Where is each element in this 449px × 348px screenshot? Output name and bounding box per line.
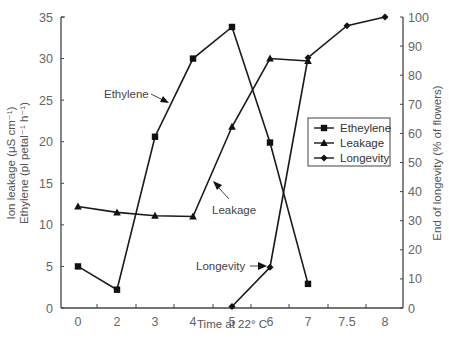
x-tick-label: 7.5 [338, 315, 355, 329]
y-right-tick-label: 80 [408, 69, 422, 83]
y-right-tick-label: 0 [408, 302, 415, 316]
y-left-tick-label: 35 [39, 11, 53, 25]
square-marker-icon [114, 287, 120, 293]
y-right-tick-label: 100 [408, 11, 429, 25]
annotation-longevity: Longevity [196, 260, 245, 272]
arrow-head-icon [258, 262, 267, 270]
x-tick-label: 2 [114, 315, 121, 329]
square-marker-icon [267, 139, 273, 145]
series-line [78, 59, 308, 217]
x-tick-label: 7 [305, 315, 312, 329]
annotation-ethylene: Ethylene [104, 88, 149, 100]
axes: 0510152025303501020304050607080901000234… [39, 11, 429, 330]
y-left-tick-label: 20 [39, 135, 53, 149]
x-tick-label: 3 [152, 315, 159, 329]
square-marker-icon [152, 134, 158, 140]
chart: 0510152025303501020304050607080901000234… [0, 0, 449, 348]
diamond-marker-icon [382, 14, 389, 21]
arrow-head-icon [213, 181, 222, 190]
square-marker-icon [190, 55, 196, 61]
y-axis-left-title-line2: Ethylene (pl petal⁻¹ h⁻¹) [18, 102, 30, 224]
legend-label: Longevity [340, 152, 389, 164]
y-right-tick-label: 90 [408, 40, 422, 54]
y-right-tick-label: 40 [408, 185, 422, 199]
square-marker-icon [75, 263, 81, 269]
y-left-tick-label: 30 [39, 52, 53, 66]
x-tick-label: 0 [75, 315, 82, 329]
y-left-tick-label: 10 [39, 218, 53, 232]
triangle-marker-icon [228, 123, 236, 130]
square-marker-icon [229, 24, 235, 30]
annotation-leakage: Leakage [212, 204, 256, 216]
y-axis-right-title: End of longevity (% of flowers) [431, 85, 443, 240]
x-axis-title: Time at 22° C [197, 318, 267, 330]
y-left-tick-label: 5 [46, 260, 53, 274]
x-tick-label: 8 [382, 315, 389, 329]
y-right-tick-label: 20 [408, 243, 422, 257]
y-right-tick-label: 30 [408, 214, 422, 228]
series-etheylene [75, 24, 311, 293]
legend-label: Etheylene [340, 122, 391, 134]
annotation-leakage-arrow-line [218, 187, 229, 199]
y-axis-left-title-line1: Ion leakage (μS cm⁻¹) [5, 106, 17, 219]
triangle-marker-icon [74, 203, 82, 210]
series-leakage [74, 55, 312, 220]
y-left-tick-label: 15 [39, 177, 53, 191]
legend-label: Leakage [340, 137, 384, 149]
arrow-head-icon [160, 96, 169, 103]
x-tick-label: 4 [190, 315, 197, 329]
y-right-tick-label: 50 [408, 156, 422, 170]
legend-square-icon [321, 125, 327, 131]
square-marker-icon [305, 281, 311, 287]
x-tick-label: 6 [267, 315, 274, 329]
y-right-tick-label: 60 [408, 127, 422, 141]
y-left-tick-label: 0 [46, 302, 53, 316]
y-right-tick-label: 10 [408, 272, 422, 286]
legend: EtheyleneLeakageLongevity [308, 118, 391, 166]
y-left-tick-label: 25 [39, 94, 53, 108]
y-right-tick-label: 70 [408, 98, 422, 112]
